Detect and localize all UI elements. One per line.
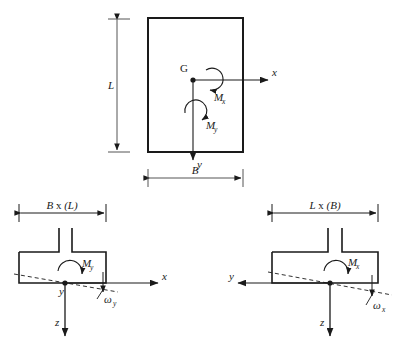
section-right-dimension-label: L x (B) — [308, 199, 341, 212]
dim-left-mid: x — [53, 199, 64, 211]
section-right-outline — [272, 228, 378, 283]
section-left-rotation-subscript: y — [112, 299, 117, 308]
centroid-point — [190, 77, 195, 82]
section-left-axis-y-label: y — [58, 285, 64, 297]
figure-canvas: L B x y G M x M y — [0, 0, 420, 348]
dim-right-mid: x — [316, 199, 327, 211]
centroid-label: G — [180, 62, 188, 74]
section-right-moment-subscript: x — [355, 262, 360, 271]
moment-my-subscript: y — [213, 125, 218, 134]
moment-mx-arrow — [206, 68, 223, 90]
plan-rectangle — [148, 18, 243, 152]
plan-axis-x-label: x — [271, 66, 277, 78]
section-right-rotation-label: ω — [373, 299, 381, 311]
section-left-rotation-mark — [97, 272, 104, 299]
section-left-group: B x (L) x y z M y ω y — [14, 199, 167, 336]
moment-mx-subscript: x — [221, 97, 226, 106]
section-left-dimension-label: B x (L) — [46, 199, 78, 212]
section-left-axis-x-label: x — [161, 270, 167, 282]
plan-view-group: L B x y G M x M y — [107, 18, 277, 187]
section-right-axis-y-label: y — [228, 270, 234, 282]
dim-right-paren: (B) — [327, 199, 341, 212]
section-right-group: L x (B) y z M x ω x — [228, 199, 392, 336]
section-right-rotation-subscript: x — [381, 305, 386, 314]
section-left-outline — [19, 228, 106, 283]
engineering-diagram: L B x y G M x M y — [0, 0, 420, 348]
dim-right-main: L — [308, 199, 315, 211]
section-right-moment-arrow — [324, 260, 348, 274]
section-left-rotation-label: ω — [104, 293, 112, 305]
section-left-axis-z-label: z — [54, 316, 60, 328]
section-right-axis-z-label: z — [319, 316, 325, 328]
dim-left-paren: (L) — [64, 199, 78, 212]
section-left-moment-subscript: y — [89, 263, 94, 272]
section-left-moment-arrow — [58, 260, 82, 274]
moment-my-arrow — [185, 100, 207, 120]
plan-axis-y-label: y — [196, 158, 202, 170]
dimension-L-label: L — [107, 79, 114, 91]
